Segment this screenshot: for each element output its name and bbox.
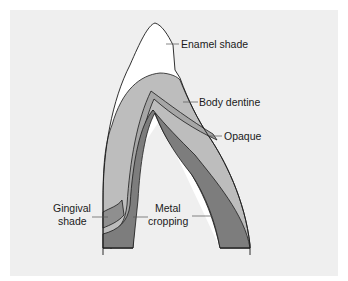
- label-enamel-shade: Enamel shade: [181, 38, 248, 50]
- label-metal-line1: Metal: [155, 202, 181, 214]
- label-gingival-line2: shade: [58, 215, 87, 227]
- label-opaque: Opaque: [224, 130, 262, 142]
- label-metal-line2: cropping: [148, 215, 188, 227]
- label-body-dentine: Body dentine: [199, 96, 260, 108]
- label-gingival-line1: Gingival: [53, 202, 91, 214]
- crown-diagram: Enamel shade Body dentine Opaque Gingiva…: [0, 0, 348, 281]
